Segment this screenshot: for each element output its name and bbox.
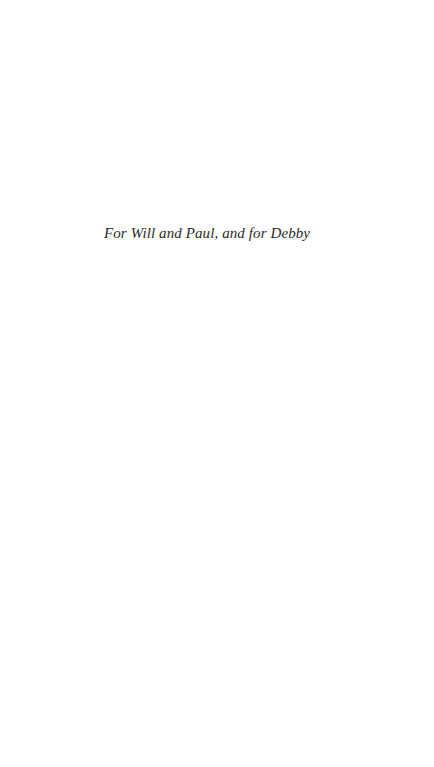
dedication-text: For Will and Paul, and for Debby	[104, 225, 310, 242]
dedication-page: For Will and Paul, and for Debby	[0, 0, 434, 767]
